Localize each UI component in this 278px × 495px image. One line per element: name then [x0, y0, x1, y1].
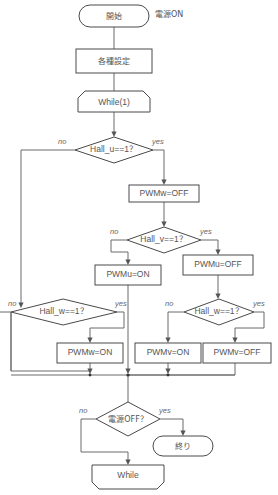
edge-hallu-no — [21, 150, 75, 305]
node-pwmu-off[interactable]: PWMu=OFF — [183, 255, 253, 275]
arrow-hallw-right-no — [165, 338, 170, 344]
power-off-yes-label: yes — [158, 406, 171, 415]
hall-w-left-yes-label: yes — [114, 299, 127, 308]
edge-hallu-yes — [153, 150, 164, 182]
arrow-to-hallu — [111, 132, 116, 138]
settings-label: 各種設定 — [98, 56, 130, 66]
hall-w-left-label: Hall_w==1？ — [39, 306, 88, 316]
pwmv-off-label: PWMv=OFF — [214, 347, 261, 357]
node-pwmw-off[interactable]: PWMw=OFF — [129, 185, 199, 202]
hall-w-right-no-label: no — [165, 299, 173, 308]
node-pwmv-off[interactable]: PWMv=OFF — [203, 343, 271, 363]
node-pwmv-on[interactable]: PWMv=ON — [135, 343, 201, 363]
hall-w-left-no-label: no — [8, 299, 16, 308]
hall-v-yes-label: yes — [199, 227, 212, 236]
edge-hallw-left-no — [0, 312, 11, 371]
node-pwmw-on[interactable]: PWMw=ON — [57, 343, 123, 363]
pwmv-on-label: PWMv=ON — [147, 347, 190, 357]
edge-hallv-no — [111, 240, 128, 262]
power-off-label: 電源OFF？ — [108, 415, 148, 424]
node-end[interactable]: 終り — [153, 436, 213, 456]
edge-poweroff-yes — [160, 419, 183, 433]
while-end-label: While — [117, 470, 139, 480]
arrow-hallv-yes — [215, 250, 220, 256]
edge-pwmvoff-down — [128, 363, 235, 375]
junction-dot-right — [167, 374, 170, 377]
junction-dot-left — [89, 374, 92, 377]
hall-v-no-label: no — [110, 227, 118, 236]
arrow-hallu-no — [18, 303, 23, 309]
arrow-to-hallv — [161, 222, 166, 228]
arrow-poweroff-yes — [180, 431, 185, 437]
node-pwmu-on[interactable]: PWMu=ON — [95, 265, 161, 285]
node-while-end[interactable]: While — [92, 465, 164, 489]
hall-w-right-label: Hall_w==1？ — [194, 306, 243, 316]
pwmw-on-label: PWMw=ON — [68, 347, 113, 357]
arrow-hallw-left-yes — [87, 338, 92, 344]
power-off-no-label: no — [79, 406, 87, 415]
hall-v-label: Hall_v==1？ — [140, 234, 187, 244]
while-begin-label: While(1) — [98, 97, 130, 107]
arrow-pwmvon-merge — [165, 369, 170, 375]
flowchart-canvas: 開始 電源ON 各種設定 While(1) Hall_u==1？ no yes … — [0, 0, 278, 495]
node-settings[interactable]: 各種設定 — [76, 49, 152, 73]
arrow-hallw-right-yes — [232, 338, 237, 344]
arrow-hallu-yes — [161, 180, 166, 186]
node-start[interactable]: 開始 — [79, 5, 149, 27]
start-label: 開始 — [106, 11, 122, 21]
hall-w-right-yes-label: yes — [252, 299, 265, 308]
pwmu-off-label: PWMu=OFF — [194, 259, 241, 269]
hall-u-label: Hall_u==1？ — [90, 144, 138, 154]
power-on-note: 電源ON — [155, 10, 183, 19]
node-while-begin[interactable]: While(1) — [78, 91, 150, 112]
node-decision-hall-w-left[interactable]: Hall_w==1？ no yes — [8, 299, 127, 325]
node-decision-hall-u[interactable]: Hall_u==1？ no yes — [58, 137, 164, 163]
edge-hallv-yes — [201, 240, 218, 252]
hall-u-yes-label: yes — [151, 137, 164, 146]
arrow-to-hallw-right — [215, 294, 220, 300]
pwmw-off-label: PWMw=OFF — [140, 188, 189, 198]
edge-hallw-right-no — [168, 312, 184, 340]
hall-u-no-label: no — [58, 137, 66, 146]
arrow-hallv-no — [125, 260, 130, 266]
end-label: 終り — [175, 441, 191, 451]
arrow-pwmuon-merge — [125, 369, 130, 375]
junction-dot-center — [126, 373, 129, 376]
arrow-poweroff-no — [125, 460, 130, 466]
pwmu-on-label: PWMu=ON — [106, 269, 149, 279]
flowchart-svg: 開始 電源ON 各種設定 While(1) Hall_u==1？ no yes … — [0, 0, 278, 495]
